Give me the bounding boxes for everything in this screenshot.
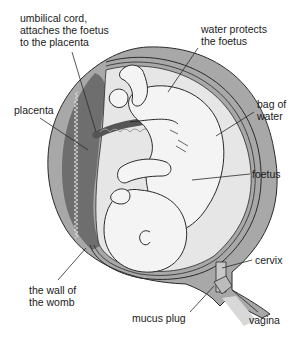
label-cervix: cervix (255, 254, 282, 266)
label-foetus: foetus (252, 168, 281, 180)
label-umbilical-cord: umbilical cord, attaches the foetus to t… (20, 12, 109, 48)
label-placenta: placenta (14, 104, 54, 116)
label-wall-of-womb: the wall of the womb (29, 284, 76, 308)
label-water-protects: water protects the foetus (201, 23, 267, 47)
label-mucus-plug: mucus plug (132, 312, 186, 324)
label-vagina: vagina (249, 314, 280, 326)
leader-wall-of-womb (58, 248, 86, 280)
label-bag-of-water: bag of water (257, 98, 286, 122)
